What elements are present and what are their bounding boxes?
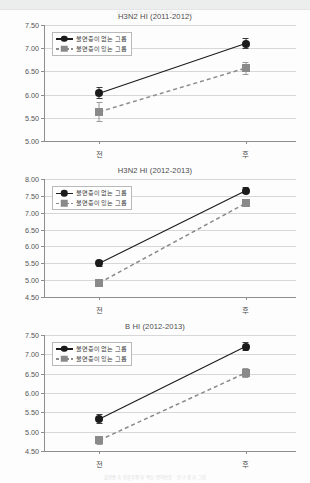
legend-item: 불면증이 있는 그룹 bbox=[56, 45, 127, 53]
legend-item: 불면증이 없는 그룹 bbox=[56, 345, 127, 353]
legend-marker-circle-icon bbox=[56, 35, 73, 43]
x-tick-mark bbox=[246, 297, 247, 300]
y-axis-tick-label: 6.00 bbox=[25, 90, 39, 99]
data-point-circle bbox=[242, 40, 250, 48]
x-axis-tick-label: 전 bbox=[96, 148, 103, 159]
legend-item-label: 불면증이 없는 그룹 bbox=[76, 346, 127, 352]
x-tick-mark bbox=[99, 297, 100, 300]
y-tick-mark bbox=[41, 297, 44, 298]
data-point-square bbox=[242, 369, 250, 377]
y-axis-tick-label: 4.50 bbox=[25, 293, 39, 302]
x-tick-mark bbox=[99, 141, 100, 144]
data-point-circle bbox=[242, 343, 250, 351]
y-axis-tick-label: 6.50 bbox=[25, 225, 39, 234]
data-point-circle bbox=[95, 89, 103, 97]
legend-marker-circle-icon bbox=[56, 345, 73, 353]
legend-marker-square-icon bbox=[56, 355, 73, 363]
y-axis-tick-label: 5.50 bbox=[25, 259, 39, 268]
plot-area: 5.005.506.006.507.007.50전후불면증이 없는 그룹불면증이… bbox=[44, 25, 296, 141]
y-axis-tick-label: 6.50 bbox=[25, 67, 39, 76]
plot-area: 4.505.005.506.006.507.007.508.00전후불면증이 없… bbox=[44, 179, 296, 297]
data-point-square bbox=[95, 436, 103, 444]
y-axis-tick-label: 6.50 bbox=[25, 369, 39, 378]
figure-page: 대한수면의학회지 제21권 제2호 2014 H3N2 HI (2011-201… bbox=[0, 0, 310, 483]
gridline bbox=[44, 297, 296, 298]
data-point-circle bbox=[242, 187, 250, 195]
chart-title: H3N2 HI (2011-2012) bbox=[0, 12, 310, 21]
data-point-square bbox=[242, 64, 250, 72]
plot-area: 4.505.005.506.006.507.007.50전후불면증이 없는 그룹… bbox=[44, 335, 296, 451]
page-footer-ghost-text: 불면증과 인플루엔자 백신 면역반응 · 연구 결과 그림 bbox=[0, 474, 310, 482]
legend-item-label: 불면증이 없는 그룹 bbox=[76, 190, 127, 196]
y-axis-tick-label: 7.00 bbox=[25, 350, 39, 359]
series-line-dashed bbox=[99, 203, 245, 283]
gridline bbox=[44, 451, 296, 452]
y-axis-tick-label: 5.00 bbox=[25, 427, 39, 436]
series-line-dashed bbox=[99, 68, 245, 112]
y-axis-tick-label: 6.00 bbox=[25, 389, 39, 398]
y-tick-mark bbox=[41, 451, 44, 452]
chart-b-hi-2012-2013: B HI (2012-2013) 4.505.005.506.006.507.0… bbox=[0, 322, 310, 477]
y-axis-tick-label: 7.00 bbox=[25, 208, 39, 217]
chart-legend: 불면증이 없는 그룹불면증이 있는 그룹 bbox=[52, 32, 132, 56]
data-point-square bbox=[95, 279, 103, 287]
y-axis-tick-label: 8.00 bbox=[25, 175, 39, 184]
y-axis-tick-label: 4.50 bbox=[25, 447, 39, 456]
x-tick-mark bbox=[246, 451, 247, 454]
data-point-circle bbox=[95, 259, 103, 267]
x-axis-tick-label: 전 bbox=[96, 304, 103, 315]
legend-item: 불면증이 없는 그룹 bbox=[56, 35, 127, 43]
legend-item-label: 불면증이 있는 그룹 bbox=[76, 356, 127, 362]
y-tick-mark bbox=[41, 141, 44, 142]
chart-title: B HI (2012-2013) bbox=[0, 322, 310, 331]
y-axis-tick-label: 7.50 bbox=[25, 191, 39, 200]
y-axis-tick-label: 5.50 bbox=[25, 113, 39, 122]
y-axis-tick-label: 7.50 bbox=[25, 21, 39, 30]
legend-item-label: 불면증이 있는 그룹 bbox=[76, 46, 127, 52]
x-axis-tick-label: 후 bbox=[242, 304, 249, 315]
legend-item-label: 불면증이 있는 그룹 bbox=[76, 200, 127, 206]
x-axis-tick-label: 후 bbox=[242, 458, 249, 469]
chart-h3n2-2012-2013: H3N2 HI (2012-2013) 4.505.005.506.006.50… bbox=[0, 166, 310, 323]
legend-marker-circle-icon bbox=[56, 189, 73, 197]
y-axis-tick-label: 5.00 bbox=[25, 276, 39, 285]
y-axis-tick-label: 5.50 bbox=[25, 408, 39, 417]
data-point-square bbox=[95, 108, 103, 116]
y-axis-tick-label: 7.00 bbox=[25, 44, 39, 53]
chart-title: H3N2 HI (2012-2013) bbox=[0, 166, 310, 175]
gridline bbox=[44, 141, 296, 142]
legend-item: 불면증이 있는 그룹 bbox=[56, 199, 127, 207]
legend-item-label: 불면증이 없는 그룹 bbox=[76, 36, 127, 42]
y-axis-tick-label: 5.00 bbox=[25, 137, 39, 146]
data-point-circle bbox=[95, 415, 103, 423]
legend-item: 불면증이 있는 그룹 bbox=[56, 355, 127, 363]
data-point-square bbox=[242, 199, 250, 207]
y-axis-tick-label: 7.50 bbox=[25, 331, 39, 340]
chart-h3n2-2011-2012: H3N2 HI (2011-2012) 5.005.506.006.507.00… bbox=[0, 12, 310, 167]
x-tick-mark bbox=[246, 141, 247, 144]
legend-marker-square-icon bbox=[56, 45, 73, 53]
chart-legend: 불면증이 없는 그룹불면증이 있는 그룹 bbox=[52, 186, 132, 210]
page-top-band bbox=[0, 0, 310, 9]
chart-legend: 불면증이 없는 그룹불면증이 있는 그룹 bbox=[52, 342, 132, 366]
legend-marker-square-icon bbox=[56, 199, 73, 207]
legend-item: 불면증이 없는 그룹 bbox=[56, 189, 127, 197]
y-axis-tick-label: 6.00 bbox=[25, 242, 39, 251]
x-axis-tick-label: 전 bbox=[96, 458, 103, 469]
x-axis-tick-label: 후 bbox=[242, 148, 249, 159]
x-tick-mark bbox=[99, 451, 100, 454]
